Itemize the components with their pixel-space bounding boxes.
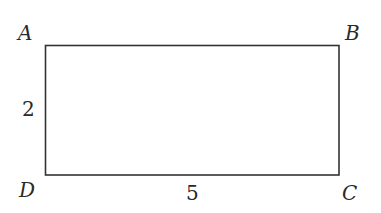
vertex-label-c: C [342,183,357,203]
vertex-label-a: A [18,23,32,43]
rectangle-diagram: A B C D 2 5 [0,0,381,213]
rectangle-abcd [46,46,340,176]
vertex-label-b: B [345,23,360,43]
vertex-label-d: D [19,180,35,200]
side-length-ad: 2 [22,99,35,119]
side-length-dc: 5 [186,183,199,203]
